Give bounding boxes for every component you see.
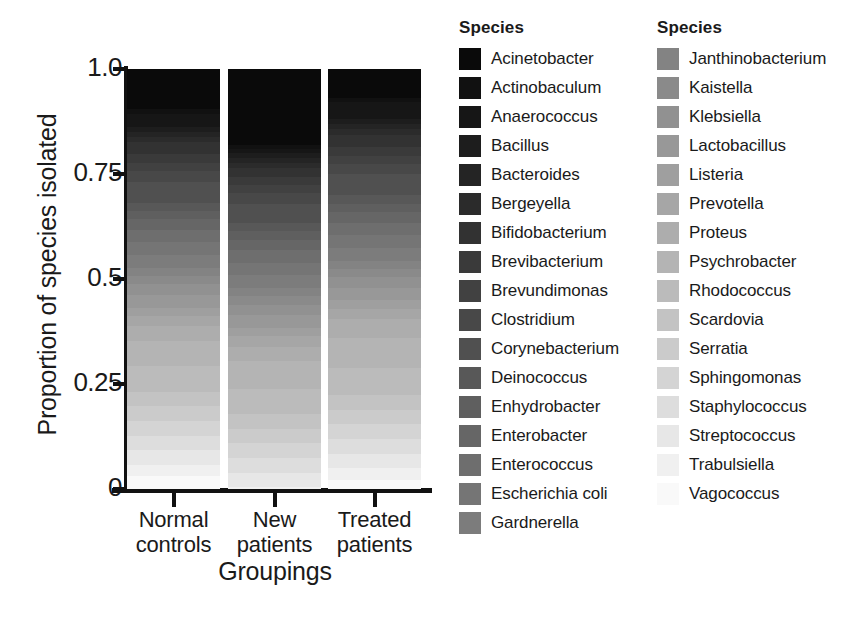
legend-item[interactable]: Listeria <box>657 160 826 189</box>
legend-item[interactable]: Brevibacterium <box>459 247 619 276</box>
bar-segment <box>228 250 321 263</box>
legend-item[interactable]: Bergeyella <box>459 189 619 218</box>
legend-item[interactable]: Psychrobacter <box>657 247 826 276</box>
legend-item[interactable]: Proteus <box>657 218 826 247</box>
legend-item-label: Deinococcus <box>491 369 587 386</box>
legend-item[interactable]: Kaistella <box>657 73 826 102</box>
legend-item[interactable]: Bifidobacterium <box>459 218 619 247</box>
legend-item[interactable]: Acinetobacter <box>459 44 619 73</box>
bar-segment <box>328 235 421 248</box>
legend-item-label: Streptococcus <box>689 427 795 444</box>
legend-item-label: Actinobaculum <box>491 79 601 96</box>
legend-item[interactable]: Klebsiella <box>657 102 826 131</box>
legend-item[interactable]: Rhodococcus <box>657 276 826 305</box>
bar-segment <box>328 424 421 439</box>
bar-segment <box>127 219 220 230</box>
legend-item[interactable]: Clostridium <box>459 305 619 334</box>
legend-item[interactable]: Bacillus <box>459 131 619 160</box>
bar-segment <box>328 248 421 261</box>
legend-title: Species <box>657 18 826 38</box>
legend-swatch-icon <box>459 280 481 302</box>
legend-item-label: Bacillus <box>491 137 549 154</box>
legend-item-label: Enterobacter <box>491 427 587 444</box>
legend-item[interactable]: Brevundimonas <box>459 276 619 305</box>
bar-segment <box>228 288 321 296</box>
legend-swatch-icon <box>657 309 679 331</box>
legend-item[interactable]: Escherichia coli <box>459 479 619 508</box>
bar-segment <box>328 277 421 288</box>
legend-swatch-icon <box>459 396 481 418</box>
bar-segment <box>127 255 220 268</box>
legend-item[interactable]: Staphylococcus <box>657 392 826 421</box>
legend-item[interactable]: Streptococcus <box>657 421 826 450</box>
bar-segment <box>228 389 321 414</box>
legend-item-label: Gardnerella <box>491 514 579 531</box>
legend-item[interactable]: Sphingomonas <box>657 363 826 392</box>
legend-item-label: Staphylococcus <box>689 398 807 415</box>
legend-swatch-icon <box>459 483 481 505</box>
legend-item[interactable]: Lactobacillus <box>657 131 826 160</box>
bar-segment <box>328 102 421 120</box>
bar-segment <box>127 163 220 171</box>
stacked-bar <box>127 69 220 489</box>
legend-swatch-icon <box>657 164 679 186</box>
legend-swatch-icon <box>657 454 679 476</box>
legend-item[interactable]: Prevotella <box>657 189 826 218</box>
legend-item-label: Bergeyella <box>491 195 570 212</box>
legend-swatch-icon <box>459 251 481 273</box>
legend-item[interactable]: Janthinobacterium <box>657 44 826 73</box>
figure: Proportion of species isolated 00.250.50… <box>0 0 860 620</box>
legend-item[interactable]: Enhydrobacter <box>459 392 619 421</box>
legend-swatch-icon <box>459 512 481 534</box>
bar-segment <box>328 174 421 195</box>
bar-segment <box>228 429 321 444</box>
legend-swatch-icon <box>459 77 481 99</box>
legend-column-1: Species AcinetobacterActinobaculumAnaero… <box>459 18 619 537</box>
bar-segment <box>328 395 421 410</box>
bar-segment <box>328 439 421 454</box>
legend-item-label: Bacteroides <box>491 166 580 183</box>
legend-swatch-icon <box>657 48 679 70</box>
bar-segment <box>127 211 220 219</box>
x-axis-label: Groupings <box>140 557 410 586</box>
legend-title: Species <box>459 18 619 38</box>
bar-segment <box>127 326 220 341</box>
legend-item[interactable]: Bacteroides <box>459 160 619 189</box>
legend-item[interactable]: Corynebacterium <box>459 334 619 363</box>
legend-item-label: Trabulsiella <box>689 456 774 473</box>
legend-swatch-icon <box>459 164 481 186</box>
bar-segment <box>127 69 220 109</box>
bar-segment <box>127 276 220 284</box>
legend-item-label: Bifidobacterium <box>491 224 607 241</box>
legend-item[interactable]: Enterobacter <box>459 421 619 450</box>
legend-item-label: Proteus <box>689 224 747 241</box>
legend-item[interactable]: Anaerococcus <box>459 102 619 131</box>
legend-item-label: Janthinobacterium <box>689 50 826 67</box>
legend-item[interactable]: Gardnerella <box>459 508 619 537</box>
bar-segment <box>228 185 321 193</box>
bar-segment <box>228 223 321 231</box>
bar-segment <box>228 275 321 288</box>
legend-item[interactable]: Actinobaculum <box>459 73 619 102</box>
legend-item-label: Rhodococcus <box>689 282 791 299</box>
bar-segment <box>127 268 220 276</box>
bar-segment <box>228 458 321 473</box>
legend-item[interactable]: Trabulsiella <box>657 450 826 479</box>
bar-segment <box>328 135 421 148</box>
legend-item[interactable]: Vagococcus <box>657 479 826 508</box>
legend-item[interactable]: Scardovia <box>657 305 826 334</box>
bar-segment <box>328 261 421 269</box>
legend-item[interactable]: Serratia <box>657 334 826 363</box>
legend-item-label: Brevundimonas <box>491 282 608 299</box>
bar-segment <box>127 465 220 476</box>
legend-swatch-icon <box>459 193 481 215</box>
legend-item-label: Sphingomonas <box>689 369 801 386</box>
bar-segment <box>328 156 421 164</box>
legend-item[interactable]: Enterococcus <box>459 450 619 479</box>
bar-segment <box>228 315 321 328</box>
bar-segment <box>127 154 220 162</box>
legend-swatch-icon <box>657 280 679 302</box>
bar-segment <box>228 361 321 388</box>
legend-swatch-icon <box>459 309 481 331</box>
legend-item[interactable]: Deinococcus <box>459 363 619 392</box>
